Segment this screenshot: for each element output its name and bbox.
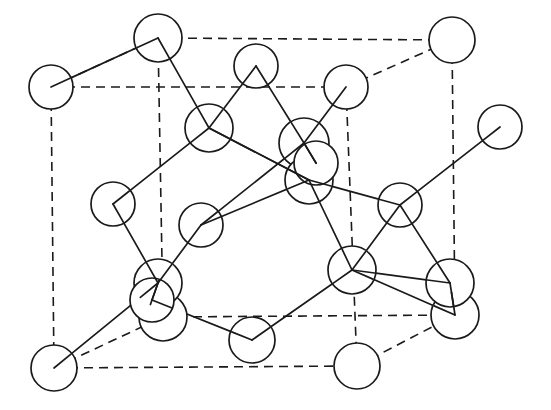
crystal-structure-figure	[0, 0, 551, 410]
atoms-group	[29, 14, 522, 391]
atom-circle	[334, 343, 380, 389]
unit-cell-edge	[54, 366, 357, 368]
atomic-bond	[260, 276, 343, 334]
unit-cell-edge	[158, 38, 452, 40]
atomic-bond	[60, 42, 148, 82]
atomic-bond	[209, 150, 295, 219]
atomic-bond	[408, 133, 492, 199]
unit-cell-edge	[163, 315, 455, 317]
unit-cell-edge	[51, 87, 54, 368]
atom-circle	[429, 17, 475, 63]
atomic-bond	[210, 184, 299, 221]
unit-cell-edge	[346, 87, 357, 366]
lattice-diagram-svg	[0, 0, 551, 410]
